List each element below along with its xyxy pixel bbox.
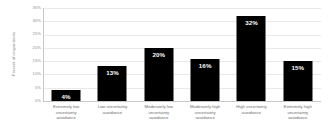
bar[interactable]: 13% [98,66,127,101]
x-axis-category-label-line: avoidance [43,115,89,121]
x-axis-category-label-line: avoidance [182,115,228,121]
y-axis-tick-label: 10% [24,72,41,76]
bar-value-label: 15% [283,64,312,71]
x-axis-category-label: High uncertaintyavoidance [228,104,274,115]
bar[interactable]: 4% [52,90,81,101]
bar-slot: 16% [182,8,228,101]
x-axis-category-labels: Extremely lowuncertaintyavoidanceLow unc… [43,104,321,134]
bars-layer: 4%13%20%16%32%15% [43,8,321,101]
bar-slot: 32% [228,8,274,101]
bar-value-label: 4% [52,93,81,100]
bar[interactable]: 15% [283,61,312,101]
y-axis-title: Percent of respondents [9,8,19,100]
y-axis-tick-label: 5% [24,86,41,90]
y-axis-tick-label: 25% [24,32,41,36]
bar-slot: 13% [89,8,135,101]
x-axis-category-label-line: avoidance [89,110,135,116]
bar-value-label: 20% [144,51,173,58]
x-axis-category-label: Moderately lowuncertaintyavoidance [136,104,182,121]
x-axis-category-label-line: avoidance [136,115,182,121]
bar[interactable]: 20% [144,48,173,101]
x-axis-category-label: Low uncertaintyavoidance [89,104,135,115]
bar-slot: 15% [275,8,321,101]
x-axis-category-label-line: avoidance [228,110,274,116]
x-axis-category-label: Extremely highuncertaintyavoidance [275,104,321,121]
y-axis-tick-label: 0% [24,99,41,103]
bar-chart: Percent of respondents 0%5%10%15%20%25%3… [0,0,330,138]
gridline [43,101,321,102]
bar-value-label: 13% [98,69,127,76]
bar-slot: 4% [43,8,89,101]
x-axis-category-label: Moderately highuncertaintyavoidance [182,104,228,121]
x-axis-category-label-line: avoidance [275,115,321,121]
bar[interactable]: 16% [191,59,220,102]
y-axis-tick-label: 35% [24,6,41,10]
bar-value-label: 32% [237,19,266,26]
y-axis-tick-label: 15% [24,59,41,63]
bar-value-label: 16% [191,62,220,69]
bar[interactable]: 32% [237,16,266,101]
x-axis-category-label: Extremely lowuncertaintyavoidance [43,104,89,121]
y-axis-tick-labels: 0%5%10%15%20%25%30%35% [24,8,41,101]
bar-slot: 20% [136,8,182,101]
y-axis-tick-label: 30% [24,19,41,23]
y-axis-tick-label: 20% [24,46,41,50]
